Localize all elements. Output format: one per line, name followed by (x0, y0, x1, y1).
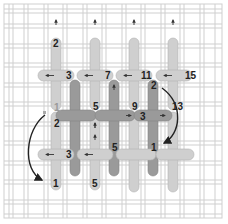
curve-left-arrow (28, 115, 45, 180)
label-mid-1: 1 (54, 102, 60, 113)
label-bot-1b: 1 (53, 178, 59, 189)
label-bot-1: 1 (151, 142, 157, 153)
label-top-15: 15 (185, 70, 197, 81)
label-mid-9: 9 (132, 101, 138, 112)
label-mid-3: 3 (140, 111, 146, 122)
label-mid-2b: 2 (151, 80, 157, 91)
label-bot-5b: 5 (92, 178, 98, 189)
label-mid-2: 2 (54, 118, 60, 129)
stitch-dark-v1 (70, 80, 80, 176)
label-top-2: 2 (53, 38, 59, 49)
diagram-canvas: 2 3 7 11 15 1 2 5 9 3 2 13 3 5 1 1 5 (0, 0, 228, 224)
label-top-3: 3 (66, 70, 72, 81)
stitch-dark-v3 (148, 80, 158, 176)
label-bot-3: 3 (66, 149, 72, 160)
label-top-7: 7 (105, 70, 111, 81)
label-mid-5: 5 (93, 101, 99, 112)
label-bot-5: 5 (112, 142, 118, 153)
middle-horizontal-stitches (56, 110, 172, 121)
start-dot (43, 111, 46, 114)
label-mid-13: 13 (172, 101, 184, 112)
stitch-diagram: 2 3 7 11 15 1 2 5 9 3 2 13 3 5 1 1 5 (0, 0, 228, 224)
stitch-dark-v2 (109, 80, 119, 176)
